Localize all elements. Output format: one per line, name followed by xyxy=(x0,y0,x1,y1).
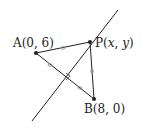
label-B: B(8, 0) xyxy=(84,102,125,116)
label-P-comma: , xyxy=(115,36,123,50)
label-A: A(0, 6) xyxy=(12,36,54,50)
label-P-close: ) xyxy=(129,36,134,50)
point-A xyxy=(34,51,38,55)
point-B xyxy=(92,97,96,101)
label-P: P(x, y) xyxy=(95,36,134,50)
segment-AB xyxy=(36,53,94,99)
diagram-canvas: A(0, 6) B(8, 0) P(x, y) xyxy=(0,0,142,131)
point-P xyxy=(88,40,92,44)
label-P-name: P xyxy=(95,36,103,50)
